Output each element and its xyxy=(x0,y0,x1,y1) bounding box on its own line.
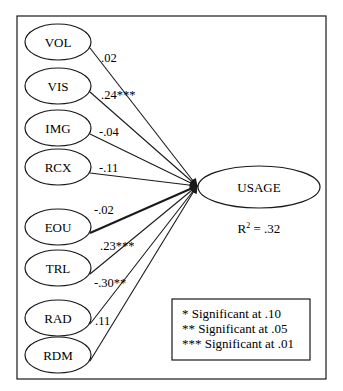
rdm-label: RDM xyxy=(43,348,73,363)
vis-label: VIS xyxy=(48,79,69,94)
outcome-node-usage: USAGE R2 = .32 xyxy=(198,166,320,236)
coefficient-vis: .24*** xyxy=(101,88,135,102)
coefficient-rdm: .11 xyxy=(95,314,110,328)
predictor-node-vol: VOL xyxy=(25,24,91,60)
path-diagram: VOLVISIMGRCXEOUTRLRADRDM .02.24***-.04-.… xyxy=(0,0,343,391)
predictor-node-rcx: RCX xyxy=(25,149,91,185)
rad-label: RAD xyxy=(44,311,71,326)
r-squared-symbol: R xyxy=(238,221,247,236)
coefficient-trl: .23*** xyxy=(100,239,134,253)
predictor-node-rdm: RDM xyxy=(25,337,91,373)
coefficient-eou: -.02 xyxy=(94,203,114,217)
predictor-node-rad: RAD xyxy=(25,300,91,336)
predictor-node-img: IMG xyxy=(25,110,91,146)
img-label: IMG xyxy=(45,121,70,136)
path-line-img xyxy=(90,134,197,186)
coefficient-rcx: -.11 xyxy=(99,161,118,175)
predictor-node-trl: TRL xyxy=(25,250,91,286)
trl-label: TRL xyxy=(46,261,71,276)
vol-label: VOL xyxy=(45,35,72,50)
usage-label: USAGE xyxy=(237,180,280,195)
legend-line-3: *** Significant at .01 xyxy=(182,336,294,351)
predictor-nodes: VOLVISIMGRCXEOUTRLRADRDM xyxy=(25,24,91,373)
path-coefficients: .02.24***-.04-.11-.02.23***-.30**.11 xyxy=(94,51,135,328)
significance-legend: * Significant at .10 ** Significant at .… xyxy=(172,299,310,360)
predictor-node-eou: EOU xyxy=(25,209,91,245)
coefficient-rad: -.30** xyxy=(94,276,126,290)
coefficient-img: -.04 xyxy=(99,125,120,139)
r-squared-label: R2 = .32 xyxy=(238,221,281,236)
legend-line-2: ** Significant at .05 xyxy=(182,321,287,336)
coefficient-vol: .02 xyxy=(101,51,117,65)
path-line-trl xyxy=(90,186,197,274)
eou-label: EOU xyxy=(45,220,72,235)
r-squared-value: = .32 xyxy=(250,221,280,236)
predictor-node-vis: VIS xyxy=(25,68,91,104)
rcx-label: RCX xyxy=(45,160,72,175)
legend-line-1: * Significant at .10 xyxy=(182,306,281,321)
